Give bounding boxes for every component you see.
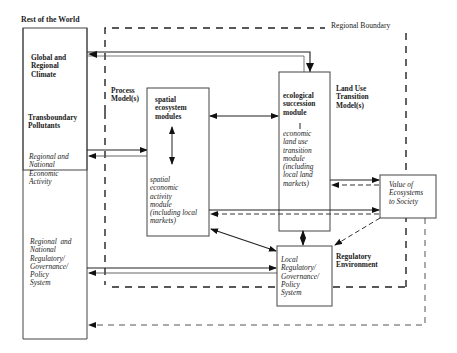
regional-regulatory-label: Regional and National Regulatory/ Govern… xyxy=(30,238,71,288)
local-regulatory-label: Local Regulatory/ Governance/ Policy Sys… xyxy=(281,256,319,297)
rest-of-world-box xyxy=(23,28,87,170)
ecological-box-body: economic land use transition module (inc… xyxy=(283,130,313,188)
regulatory-environment-label: Regulatory Environment xyxy=(336,253,378,270)
spatial-box-body: spatial economic activity module (includ… xyxy=(150,176,197,226)
value-box-label: Value of Ecosystems to Society xyxy=(389,181,423,206)
process-models-label: Process Model(s) xyxy=(111,87,139,104)
land-use-label: Land Use Transition Model(s) xyxy=(336,85,369,110)
transboundary-label: Transboundary Pollutants xyxy=(28,114,77,131)
regional-boundary-label: Regional Boundary xyxy=(331,22,390,30)
economic-activity-label: Regional and National Economic Activity xyxy=(29,153,69,186)
value-to-world-feedback xyxy=(92,218,425,325)
rest-of-world-label: Rest of the World xyxy=(21,16,80,24)
ecological-box-title: ecological succession module xyxy=(283,92,315,117)
global-climate-label: Global and Regional Climate xyxy=(31,54,66,79)
spatial-box-title: spatial ecosystem modules xyxy=(155,96,187,121)
